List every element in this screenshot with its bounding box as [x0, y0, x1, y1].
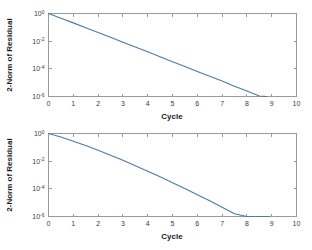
y-ticks-top — [49, 14, 297, 97]
x-tick-label: 0 — [47, 100, 51, 107]
y-tick-labels-top: 10010-210-410-6 — [32, 9, 44, 101]
x-tick-label: 5 — [171, 220, 175, 227]
x-axis-title-top: Cycle — [161, 112, 183, 121]
x-tick-label: 1 — [71, 100, 75, 107]
y-tick-label: 10-4 — [32, 184, 44, 193]
x-tick-label: 5 — [171, 100, 175, 107]
chart-panel-top: 012345678910 10010-210-410-6 Cycle 2-Nor… — [0, 0, 312, 125]
residual-curve-top — [49, 14, 267, 97]
x-tick-label: 8 — [245, 100, 249, 107]
plot-svg-top: 012345678910 10010-210-410-6 Cycle 2-Nor… — [0, 0, 312, 125]
y-tick-label: 10-6 — [32, 92, 44, 101]
x-tick-labels-bottom: 012345678910 — [47, 220, 301, 227]
y-tick-label: 10-6 — [32, 212, 44, 221]
x-tick-label: 3 — [121, 100, 125, 107]
plot-frame-top — [49, 14, 297, 97]
x-tick-label: 9 — [270, 220, 274, 227]
x-tick-label: 7 — [220, 100, 224, 107]
chart-panel-bottom: 012345678910 10010-210-410-6 Cycle 2-Nor… — [0, 125, 312, 250]
x-ticks-top — [49, 14, 297, 97]
x-tick-label: 4 — [146, 220, 150, 227]
x-tick-label: 7 — [220, 220, 224, 227]
x-tick-label: 10 — [293, 100, 301, 107]
plot-svg-bottom: 012345678910 10010-210-410-6 Cycle 2-Nor… — [0, 125, 312, 250]
x-tick-label: 1 — [71, 220, 75, 227]
x-tick-label: 0 — [47, 220, 51, 227]
y-tick-label: 100 — [34, 9, 45, 18]
figure-container: 012345678910 10010-210-410-6 Cycle 2-Nor… — [0, 0, 312, 250]
y-tick-labels-bottom: 10010-210-410-6 — [32, 129, 44, 221]
x-tick-label: 3 — [121, 220, 125, 227]
residual-curve-bottom — [49, 134, 270, 217]
y-tick-label: 10-2 — [32, 156, 44, 165]
y-axis-title-top: 2-Norm of Residual — [5, 18, 14, 91]
x-tick-label: 10 — [293, 220, 301, 227]
x-tick-label: 9 — [270, 100, 274, 107]
x-tick-label: 8 — [245, 220, 249, 227]
x-tick-label: 6 — [195, 100, 199, 107]
y-tick-label: 100 — [34, 129, 45, 138]
x-tick-label: 6 — [195, 220, 199, 227]
x-tick-label: 4 — [146, 100, 150, 107]
y-tick-label: 10-4 — [32, 64, 44, 73]
y-axis-title-bottom: 2-Norm of Residual — [5, 138, 14, 211]
y-tick-label: 10-2 — [32, 36, 44, 45]
x-tick-labels-top: 012345678910 — [47, 100, 301, 107]
x-axis-title-bottom: Cycle — [161, 232, 183, 241]
x-tick-label: 2 — [96, 100, 100, 107]
x-tick-label: 2 — [96, 220, 100, 227]
